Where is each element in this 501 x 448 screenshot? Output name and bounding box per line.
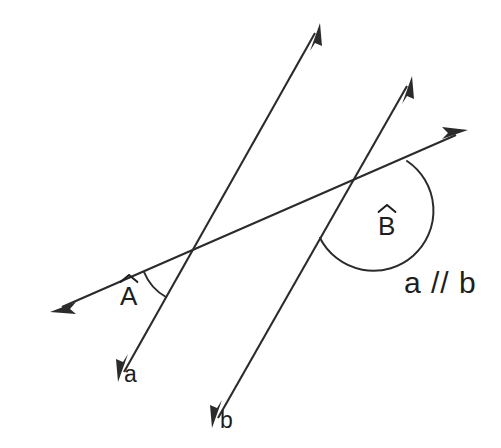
transversal-left-arrowhead — [50, 302, 76, 314]
line-a-label: a — [124, 363, 137, 386]
angle-b-mark — [320, 161, 433, 271]
transversal-right-arrowhead — [442, 127, 468, 139]
angle-a-hat-wrap: A — [120, 283, 137, 309]
geometry-figure: a b A B a // b — [0, 0, 501, 448]
parallel-relation-label: a // b — [404, 268, 477, 298]
angle-a-arc — [144, 272, 166, 297]
line-b-segment — [218, 86, 407, 418]
line-b-label: b — [220, 409, 233, 432]
angle-a-letter: A — [120, 281, 137, 311]
angle-b-hat-wrap: B — [378, 213, 395, 239]
geometry-canvas — [0, 0, 501, 448]
angle-b-label: B — [378, 213, 395, 239]
angle-a-label: A — [120, 283, 137, 309]
angle-b-arc — [320, 161, 433, 271]
line-a — [116, 23, 322, 382]
line-b — [210, 76, 414, 428]
line-a-segment — [124, 33, 315, 372]
angle-b-letter: B — [378, 211, 395, 241]
angle-a-mark — [144, 272, 166, 297]
